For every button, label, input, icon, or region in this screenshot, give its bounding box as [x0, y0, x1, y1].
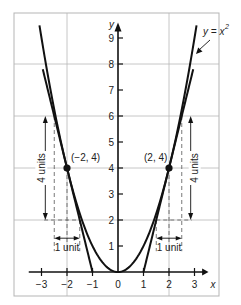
y-tick-label: 8	[108, 59, 114, 70]
y-tick-label: 4	[108, 163, 114, 174]
x-axis-label: x	[210, 279, 217, 290]
tangent-point	[63, 164, 70, 171]
arrow-up-icon	[43, 116, 48, 123]
x-tick-label: 0	[115, 279, 121, 290]
x-tick-label: −3	[36, 279, 48, 290]
arrow-right-icon	[74, 236, 80, 241]
x-tick-label: −2	[61, 279, 73, 290]
chart-svg: −3−2−10123123456789xy (−2, 4)(2, 4) y = …	[0, 0, 241, 305]
curve-label-superscript: 2	[224, 23, 229, 30]
y-tick-label: 9	[108, 33, 114, 44]
y-tick-label: 1	[108, 241, 114, 252]
y-tick-label: 2	[108, 215, 114, 226]
arrow-right-icon	[176, 236, 182, 241]
x-tick-label: 3	[192, 279, 198, 290]
measure-label: 1 unit	[157, 242, 182, 253]
y-tick-label: 6	[108, 111, 114, 122]
annotations: y = x24 units4 units1 unit1 unit	[35, 23, 229, 253]
y-tick-label: 7	[108, 85, 114, 96]
tangent-point	[165, 164, 172, 171]
arrow-up-icon	[188, 116, 193, 123]
curve-label: y = x	[202, 26, 225, 37]
y-axis-label: y	[108, 19, 115, 30]
parabola-tangent-chart: −3−2−10123123456789xy (−2, 4)(2, 4) y = …	[0, 0, 241, 305]
x-tick-label: 1	[141, 279, 147, 290]
arrow-left-icon	[54, 236, 60, 241]
point-label: (2, 4)	[144, 152, 167, 163]
pointer-arrow-icon	[196, 48, 203, 55]
y-axis-arrow-icon	[115, 22, 122, 31]
x-tick-label: −1	[87, 279, 99, 290]
point-label: (−2, 4)	[71, 152, 100, 163]
measure-label: 4 units	[36, 153, 47, 182]
curve-label-pointer	[199, 40, 210, 50]
x-tick-label: 2	[166, 279, 172, 290]
arrow-left-icon	[156, 236, 162, 241]
x-axis-arrow-icon	[202, 269, 208, 276]
arrow-down-icon	[43, 213, 48, 220]
y-tick-label: 5	[108, 137, 114, 148]
y-tick-label: 3	[108, 189, 114, 200]
measure-label: 4 units	[189, 153, 200, 182]
arrow-down-icon	[188, 213, 193, 220]
measure-label: 1 unit	[55, 242, 80, 253]
